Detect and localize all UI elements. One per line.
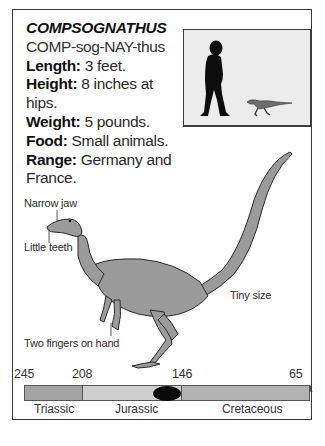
segment-cretaceous	[181, 385, 310, 401]
label-tiny-size: Tiny size	[230, 289, 271, 301]
label-two-fingers: Two fingers on hand	[24, 337, 119, 349]
tick-245: 245	[14, 367, 34, 381]
label-little-teeth: Little teeth	[24, 241, 72, 253]
segment-triassic	[24, 385, 83, 401]
period-cretaceous: Cretaceous	[222, 402, 282, 416]
label-narrow-jaw: Narrow jaw	[24, 197, 77, 209]
era-marker-icon	[153, 386, 181, 401]
tick-146: 146	[172, 367, 192, 381]
compsognathus-illustration	[0, 0, 325, 446]
period-triassic: Triassic	[34, 402, 74, 416]
period-jurassic: Jurassic	[115, 402, 158, 416]
tick-208: 208	[72, 367, 92, 381]
